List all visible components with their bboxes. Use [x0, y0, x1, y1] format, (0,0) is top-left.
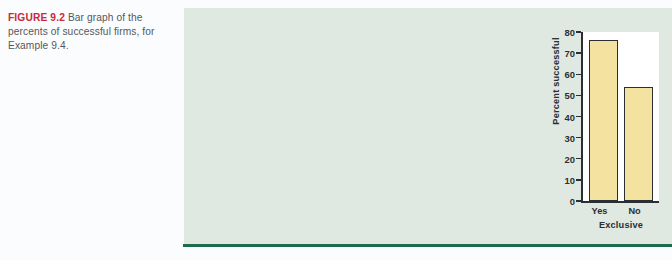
y-tick-label: 60 — [553, 69, 575, 80]
figure-number-label: FIGURE 9.2 — [8, 12, 65, 23]
figure-panel: Percent successful 01020304050607080 Exc… — [184, 8, 672, 244]
figure-caption: FIGURE 9.2 Bar graph of the percents of … — [8, 11, 176, 54]
y-tick-label: 10 — [553, 174, 575, 185]
y-tick-label: 30 — [553, 132, 575, 143]
y-tick-label: 20 — [553, 153, 575, 164]
x-axis-line — [581, 201, 659, 203]
y-tick-label: 0 — [553, 196, 575, 207]
plot-area — [583, 32, 659, 201]
y-tick-label: 40 — [553, 111, 575, 122]
x-category-label: No — [618, 206, 651, 216]
bar-yes — [589, 40, 618, 201]
panel-bottom-rule — [183, 244, 672, 247]
x-axis-label: Exclusive — [579, 220, 663, 230]
y-tick-label: 80 — [553, 27, 575, 38]
y-tick-label: 70 — [553, 48, 575, 59]
bar-chart: Percent successful 01020304050607080 Exc… — [539, 32, 672, 232]
x-category-label: Yes — [583, 206, 616, 216]
bar-no — [624, 87, 653, 201]
y-axis-tick-labels: 01020304050607080 — [553, 32, 575, 202]
y-tick-label: 50 — [553, 90, 575, 101]
